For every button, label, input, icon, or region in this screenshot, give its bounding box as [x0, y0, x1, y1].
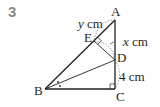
x-pointer	[110, 42, 114, 44]
label-b: B	[34, 83, 43, 98]
label-a: A	[111, 4, 121, 19]
angle-mark-b2	[59, 85, 61, 87]
right-angle-e	[98, 37, 102, 44]
angle-mark-b1	[57, 81, 59, 83]
label-y-cm: y cm	[76, 16, 103, 31]
label-x-cm: x cm	[122, 34, 148, 49]
right-angle-c	[110, 84, 115, 89]
label-e: E	[84, 30, 92, 45]
label-c: C	[116, 89, 125, 104]
segment-bd	[45, 60, 115, 89]
triangle-diagram: A B C D E y cm x cm 4 cm	[0, 0, 160, 107]
label-4-cm: 4 cm	[119, 69, 145, 84]
label-d: D	[117, 50, 126, 65]
